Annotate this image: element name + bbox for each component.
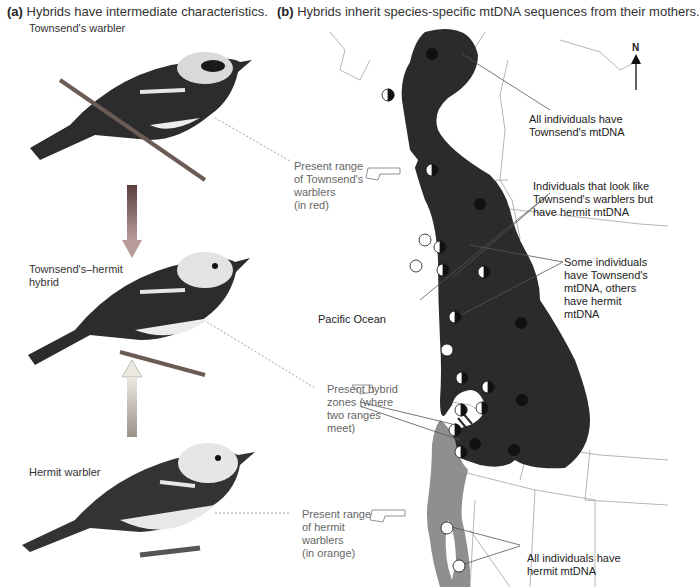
townsend-to-hybrid-arrow xyxy=(122,185,142,258)
callout-hybrid-zones: Present hybrid zones (where two ranges m… xyxy=(327,383,398,435)
pacific-ocean-label: Pacific Ocean xyxy=(318,313,386,326)
annotation-all-townsend: All individuals have Townsend's mtDNA xyxy=(529,113,625,139)
townsend-warbler-illustration xyxy=(30,52,252,180)
townsend-warbler-label: Townsend's warbler xyxy=(29,22,125,35)
hermit-warbler-illustration xyxy=(22,443,255,555)
callout-hermit-range: Present range of hermit warblers (in ora… xyxy=(302,508,371,560)
compass-north-label: N xyxy=(632,42,639,53)
hermit-warbler-label: Hermit warbler xyxy=(29,466,101,479)
annotation-look-townsend-hermit-mtdna: Individuals that look like Townsend's wa… xyxy=(533,180,653,219)
hermit-to-hybrid-arrow xyxy=(122,360,142,437)
pointing-hand-icons xyxy=(352,168,405,522)
north-arrow-icon xyxy=(631,54,641,90)
callout-townsend-range: Present range of Townsend's warblers (in… xyxy=(294,160,363,212)
annotation-all-hermit: All individuals have hermit mtDNA xyxy=(527,552,621,578)
hybrid-warbler-label: Townsend's–hermit hybrid xyxy=(29,263,123,289)
townsend-range xyxy=(402,29,590,468)
annotation-mixed-mtdna: Some individuals have Townsend's mtDNA, … xyxy=(564,256,648,321)
